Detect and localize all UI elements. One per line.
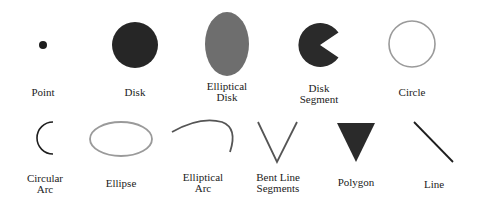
label-line: Line <box>389 179 479 190</box>
disk-segment-shape <box>298 23 338 67</box>
elliptical-disk-shape <box>205 12 249 76</box>
label-disk-segment: Disk Segment <box>274 83 364 105</box>
ellipse-shape <box>90 122 152 156</box>
label-ellipse: Ellipse <box>76 178 166 189</box>
elliptical-arc-shape <box>172 120 233 152</box>
line-shape <box>414 122 453 162</box>
point-shape <box>39 41 47 49</box>
label-disk: Disk <box>90 87 180 98</box>
circular-arc-shape <box>37 122 53 154</box>
bent-line-segments-shape <box>258 122 297 162</box>
label-circle: Circle <box>367 87 457 98</box>
label-elliptical-disk: Elliptical Disk <box>182 81 272 103</box>
label-polygon: Polygon <box>311 177 401 188</box>
label-bent-line-segments: Bent Line Segments <box>233 172 323 194</box>
label-point: Point <box>0 87 88 98</box>
disk-shape <box>112 22 158 68</box>
polygon-shape <box>337 123 375 162</box>
circle-shape <box>389 21 435 67</box>
